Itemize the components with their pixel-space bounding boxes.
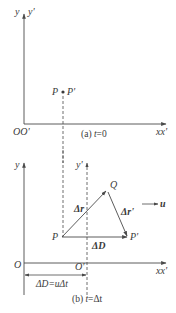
panel-a-x-label: xx' (156, 127, 167, 137)
panel-b-origin-prime-label: O' (75, 262, 84, 272)
velocity-label: u (160, 199, 166, 209)
panel-a-p-prime-label: P' (67, 87, 75, 97)
caption-suffix: =Δt (88, 294, 102, 304)
vector-delta-r-label: Δr (74, 204, 84, 214)
panel-b-y-label: y (15, 160, 19, 170)
panel-a-y-label: y (15, 7, 19, 17)
panel-b (24, 150, 166, 295)
caption-prefix: (b) (72, 294, 85, 304)
panel-b-y-prime-label: y' (76, 160, 83, 170)
panel-a (24, 14, 166, 163)
vector-delta-r-prime-label: Δr' (121, 207, 134, 217)
panel-b-x-label: xx' (156, 266, 167, 276)
displacement-label: ΔD=uΔt (36, 279, 68, 289)
point-p-label: P (52, 232, 58, 242)
panel-a-p-label: P (52, 87, 58, 97)
point-q-label: Q (110, 180, 117, 190)
vector-delta-r (62, 191, 106, 237)
panel-a-caption: (a) t=0 (81, 129, 107, 139)
panel-a-origin-label: OO' (13, 127, 30, 137)
vector-delta-d-label: ΔD (92, 241, 106, 251)
relative-motion-diagram (0, 0, 176, 313)
panel-b-caption: (b) t=Δt (72, 294, 102, 304)
point-p-prime-label: P' (130, 232, 138, 242)
panel-a-point-p (61, 90, 64, 93)
panel-a-y-prime-label: y' (28, 7, 35, 17)
panel-b-origin-label: O (14, 260, 21, 270)
caption-suffix: =0 (97, 129, 107, 139)
caption-prefix: (a) (81, 129, 94, 139)
